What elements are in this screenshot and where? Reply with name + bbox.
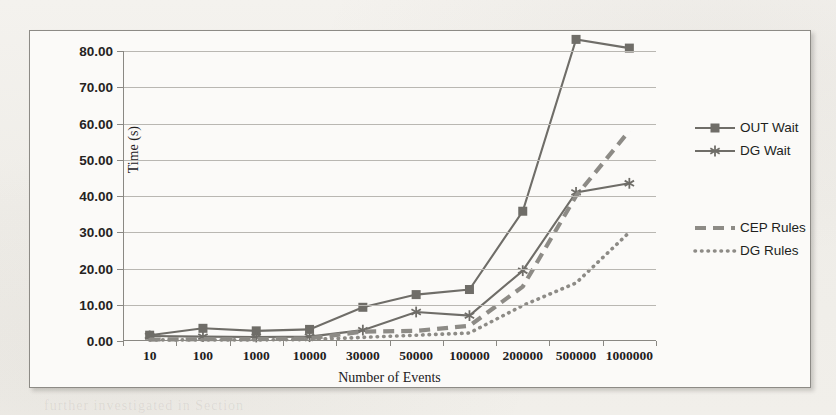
gridline — [123, 160, 656, 161]
legend-swatch-solid-star-icon — [694, 144, 736, 158]
x-axis-tick-mark — [123, 341, 124, 346]
gridline — [123, 51, 656, 52]
gridline — [123, 196, 656, 197]
y-axis-tick-label: 70.00 — [79, 80, 113, 95]
legend-swatch-solid-square-icon — [694, 121, 736, 135]
x-axis-tick-mark — [496, 341, 497, 346]
legend-item-out-wait[interactable]: OUT Wait — [694, 116, 806, 139]
y-axis-tick-labels: 0.0010.0020.0030.0040.0050.0060.0070.008… — [30, 51, 113, 341]
x-axis-tick-label: 10 — [143, 348, 157, 364]
x-axis-tick-label: 50000 — [399, 348, 433, 364]
gridline — [123, 87, 656, 88]
x-axis-tick-label: 10000 — [293, 348, 327, 364]
legend-spacer — [694, 162, 806, 216]
x-axis-tick-label: 30000 — [346, 348, 380, 364]
x-axis-tick-mark — [230, 341, 231, 346]
y-axis-tick-label: 0.00 — [87, 334, 113, 349]
x-axis-tick-label: 500000 — [556, 348, 597, 364]
x-axis-tick-mark — [336, 341, 337, 346]
y-axis-tick-label: 60.00 — [79, 116, 113, 131]
series-line-dg-wait — [150, 183, 630, 337]
legend-swatch-dashed-icon — [694, 221, 736, 235]
x-axis-tick-label: 100 — [193, 348, 213, 364]
legend-item-label: OUT Wait — [740, 120, 799, 135]
data-point-marker-square — [711, 123, 720, 132]
legend-item-label: DG Wait — [740, 143, 791, 158]
data-point-marker-square — [518, 207, 527, 216]
data-point-marker-square — [412, 290, 421, 299]
plot-area — [123, 51, 656, 341]
x-axis-tick-label: 100000 — [449, 348, 490, 364]
x-axis-tick-label: 200000 — [503, 348, 544, 364]
gridline — [123, 232, 656, 233]
x-axis-tick-mark — [283, 341, 284, 346]
legend-item-dg-wait[interactable]: DG Wait — [694, 139, 806, 162]
y-axis-tick-label: 50.00 — [79, 152, 113, 167]
series-line-dg-rules — [150, 232, 630, 340]
x-axis-title: Number of Events — [123, 370, 656, 386]
x-axis-tick-mark — [443, 341, 444, 346]
y-axis-tick-label: 80.00 — [79, 44, 113, 59]
legend-item-cep-rules[interactable]: CEP Rules — [694, 216, 806, 239]
y-axis-tick-label: 10.00 — [79, 297, 113, 312]
legend-item-label: CEP Rules — [740, 220, 806, 235]
gridline — [123, 124, 656, 125]
y-axis-line — [123, 51, 124, 341]
gridline — [123, 305, 656, 306]
y-axis-tick-label: 40.00 — [79, 189, 113, 204]
legend-item-dg-rules[interactable]: DG Rules — [694, 239, 806, 262]
x-axis-tick-label: 1000 — [243, 348, 270, 364]
x-axis-tick-mark — [549, 341, 550, 346]
chart-legend: OUT WaitDG WaitCEP RulesDG Rules — [694, 116, 806, 262]
chart-figure: 0.0010.0020.0030.0040.0050.0060.0070.008… — [29, 30, 811, 388]
legend-item-label: DG Rules — [740, 243, 799, 258]
data-point-marker-square — [465, 285, 474, 294]
legend-swatch-dotted-icon — [694, 244, 736, 258]
x-axis-tick-label: 1000000 — [606, 348, 653, 364]
x-axis-tick-mark — [390, 341, 391, 346]
x-axis-tick-mark — [603, 341, 604, 346]
y-axis-tick-label: 30.00 — [79, 225, 113, 240]
x-axis-tick-mark — [176, 341, 177, 346]
x-axis-tick-mark — [656, 341, 657, 346]
gridline — [123, 269, 656, 270]
series-line-cep-rules — [150, 131, 630, 340]
data-point-marker-square — [572, 35, 581, 44]
y-axis-tick-label: 20.00 — [79, 261, 113, 276]
